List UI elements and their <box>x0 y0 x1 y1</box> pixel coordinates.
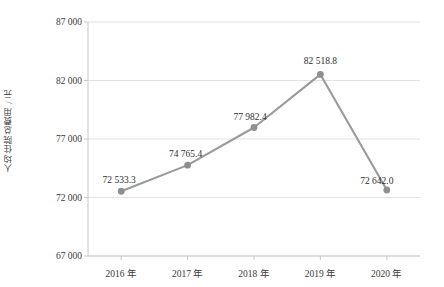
data-point-label: 82 518.8 <box>304 56 337 66</box>
data-point-label: 72 533.3 <box>103 175 136 185</box>
data-point-label: 74 765.4 <box>169 149 202 159</box>
data-point-labels: 72 533.374 765.477 982.482 518.872 642.0 <box>0 0 444 287</box>
line-chart: 人均住院总费用 / 元 67 00072 00077 00082 00087 0… <box>0 0 444 287</box>
data-point-label: 77 982.4 <box>233 112 266 122</box>
data-point-label: 72 642.0 <box>360 176 393 186</box>
